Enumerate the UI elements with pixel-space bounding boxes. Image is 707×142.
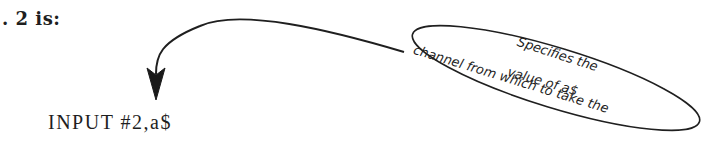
arrow-curve bbox=[156, 19, 404, 74]
code-example: INPUT #2,a$ bbox=[48, 111, 172, 134]
callout-line-1: Specifies the bbox=[515, 34, 599, 74]
callout-text: Specifies the channel from which to take… bbox=[412, 34, 702, 124]
